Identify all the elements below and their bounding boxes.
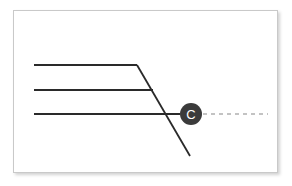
marker-c-label: C: [186, 107, 195, 122]
diagram-canvas: C: [0, 0, 292, 186]
diagram-vector-layer: C: [0, 0, 292, 186]
marker-c: C: [180, 103, 202, 125]
